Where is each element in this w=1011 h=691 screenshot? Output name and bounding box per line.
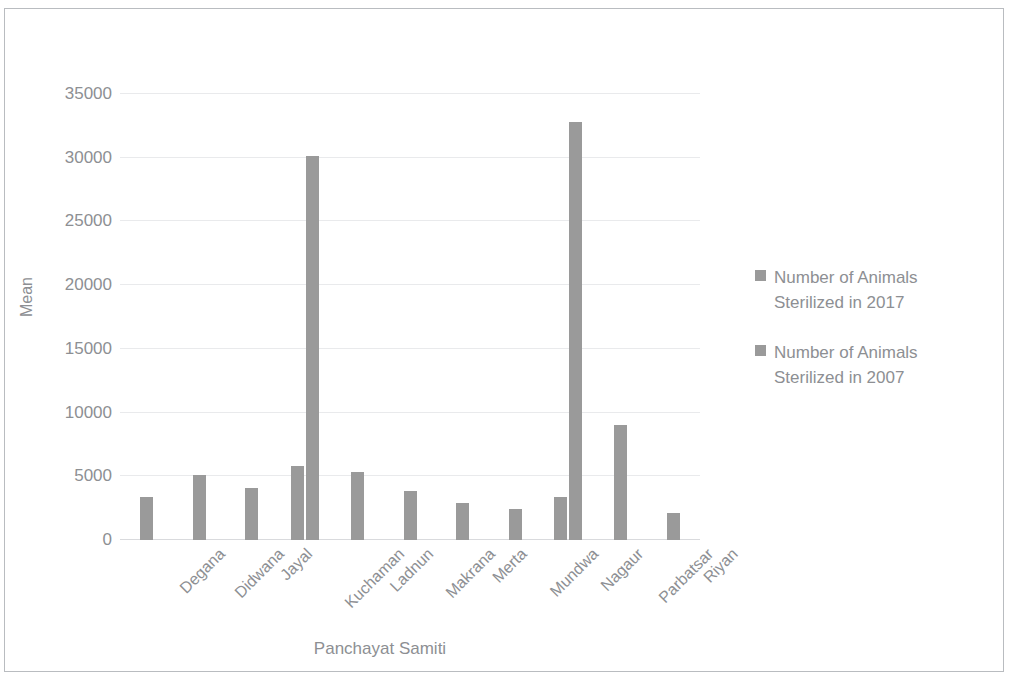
- legend-entry: Number of Animals Sterilized in 2017: [755, 266, 975, 315]
- y-axis-tick-label: 10000: [20, 403, 112, 423]
- y-axis-tick-label: 20000: [20, 275, 112, 295]
- bar: [456, 503, 469, 540]
- chart-legend: Number of Animals Sterilized in 2017Numb…: [755, 266, 975, 417]
- bar: [140, 497, 153, 540]
- legend-label: Number of Animals Sterilized in 2017: [774, 266, 949, 315]
- gridline: [120, 284, 700, 285]
- x-axis-title: Panchayat Samiti: [0, 639, 760, 659]
- bar: [509, 509, 522, 540]
- legend-swatch-icon: [755, 270, 766, 281]
- gridline: [120, 475, 700, 476]
- x-axis-tick-labels: DeganaDidwanaJayalKuchamanLadnunMakranaM…: [120, 545, 700, 640]
- legend-swatch-icon: [755, 345, 766, 356]
- x-axis-tick-label: Jayal: [277, 545, 316, 584]
- bar: [404, 491, 417, 540]
- chart-figure: Mean 05000100001500020000250003000035000…: [0, 0, 1011, 691]
- bar: [667, 513, 680, 540]
- gridline: [120, 348, 700, 349]
- y-axis-tick-label: 35000: [20, 84, 112, 104]
- gridline: [120, 157, 700, 158]
- y-axis-tick-label: 30000: [20, 148, 112, 168]
- bar: [614, 425, 627, 540]
- bar: [245, 488, 258, 540]
- gridline: [120, 412, 700, 413]
- bar: [569, 122, 582, 540]
- gridline: [120, 220, 700, 221]
- bar: [351, 472, 364, 540]
- bar: [306, 156, 319, 540]
- bar: [193, 475, 206, 540]
- y-axis-tick-label: 5000: [20, 466, 112, 486]
- gridline: [120, 93, 700, 94]
- x-axis-tick-label: Nagaur: [598, 545, 648, 595]
- y-axis-tick-label: 15000: [20, 339, 112, 359]
- bar: [291, 466, 304, 540]
- legend-entry: Number of Animals Sterilized in 2007: [755, 341, 975, 390]
- x-axis-tick-label: Degana: [177, 545, 229, 597]
- x-axis-tick-label: Merta: [489, 545, 531, 587]
- x-axis-tick-label: Mundwa: [547, 545, 602, 600]
- y-axis-tick-label: 25000: [20, 211, 112, 231]
- y-axis-tick-label: 0: [20, 530, 112, 550]
- bar: [554, 497, 567, 540]
- plot-area: [120, 94, 700, 540]
- legend-label: Number of Animals Sterilized in 2007: [774, 341, 949, 390]
- y-axis-tick-labels: 05000100001500020000250003000035000: [0, 94, 112, 540]
